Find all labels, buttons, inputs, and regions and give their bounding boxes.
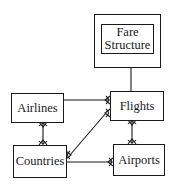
entity-fare-structure-inner: Fare Structure [101,24,154,54]
entity-countries[interactable]: Countries [13,145,67,178]
entity-flights[interactable]: Flights [110,91,164,121]
link-countries-flights [70,113,106,155]
countries-label: Countries [16,155,65,168]
er-diagram: Fare Structure Airlines Flights Countrie… [0,0,174,186]
entity-airlines[interactable]: Airlines [11,93,64,123]
entity-fare-structure[interactable]: Fare Structure [94,14,161,68]
flights-label: Flights [120,100,155,113]
fare-structure-label-line2: Structure [105,39,151,52]
airlines-label: Airlines [17,102,57,115]
airports-label: Airports [118,154,160,167]
entity-airports[interactable]: Airports [113,144,165,176]
